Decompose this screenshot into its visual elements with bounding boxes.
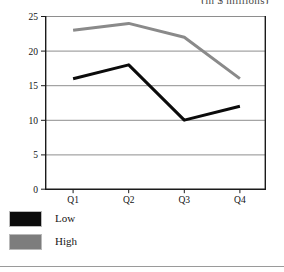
y-tick-label: 25 — [29, 12, 39, 22]
y-tick-label: 15 — [29, 81, 39, 91]
x-tick-label: Q2 — [123, 195, 135, 205]
x-tick-label: Q4 — [234, 195, 246, 205]
legend-item-low: Low — [9, 207, 159, 230]
x-tick-label: Q3 — [178, 195, 190, 205]
chart-legend: Low High — [9, 207, 159, 253]
legend-item-high: High — [9, 230, 159, 253]
legend-label-high: High — [55, 236, 77, 247]
x-tick-label: Q1 — [67, 195, 79, 205]
legend-label-low: Low — [55, 213, 75, 224]
x-axis-labels: Q1 Q2 Q3 Q4 — [67, 195, 246, 205]
y-tick-label: 20 — [29, 47, 39, 57]
y-tick-marks — [41, 17, 45, 190]
chart-figure: (in $ millions) 25 — [0, 0, 284, 272]
bottom-separator-rule — [0, 266, 284, 267]
legend-swatch-high — [9, 234, 42, 250]
plot-background — [45, 16, 266, 189]
legend-swatch-low — [9, 211, 42, 227]
y-tick-label: 10 — [29, 116, 39, 126]
y-tick-label: 0 — [33, 185, 38, 195]
y-axis-labels: 25 20 15 10 5 0 — [29, 12, 39, 195]
line-chart-plot: 25 20 15 10 5 0 Q1 Q2 Q3 Q4 — [0, 0, 284, 206]
y-tick-label: 5 — [33, 150, 38, 160]
